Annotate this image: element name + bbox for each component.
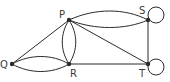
edge-p-t	[69, 20, 148, 64]
vertex-q	[10, 62, 14, 66]
vertex-r	[67, 62, 71, 66]
edge-p-q	[12, 20, 69, 64]
label-r: R	[70, 68, 77, 79]
label-s: S	[139, 5, 145, 16]
edge-p-s-upper	[69, 11, 148, 20]
loop-s	[148, 7, 164, 23]
label-t: T	[138, 68, 146, 79]
graph-diagram: P Q R S T	[0, 0, 170, 82]
vertex-p	[67, 18, 71, 22]
vertex-t	[146, 62, 150, 66]
edge-p-r-left	[62, 20, 69, 64]
edge-p-r-right	[69, 20, 76, 64]
label-p: P	[59, 9, 65, 20]
loop-t	[148, 59, 164, 75]
vertex-s	[146, 18, 150, 22]
label-q: Q	[0, 59, 8, 70]
edge-q-r-lower	[12, 64, 69, 72]
